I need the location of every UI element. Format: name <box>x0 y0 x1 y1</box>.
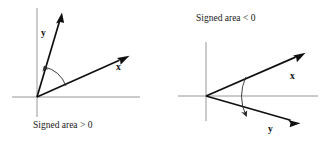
left-caption: Signed area > 0 <box>33 120 93 130</box>
signed-area-diagram: y x Signed area > 0 Signed area < 0 x y <box>0 0 322 142</box>
right-caption: Signed area < 0 <box>196 13 256 23</box>
left-vector-y-label: y <box>41 28 46 38</box>
right-vector-x-label: x <box>290 71 295 81</box>
right-vector-y-label: y <box>268 124 273 134</box>
left-vector-x-label: x <box>116 62 121 72</box>
